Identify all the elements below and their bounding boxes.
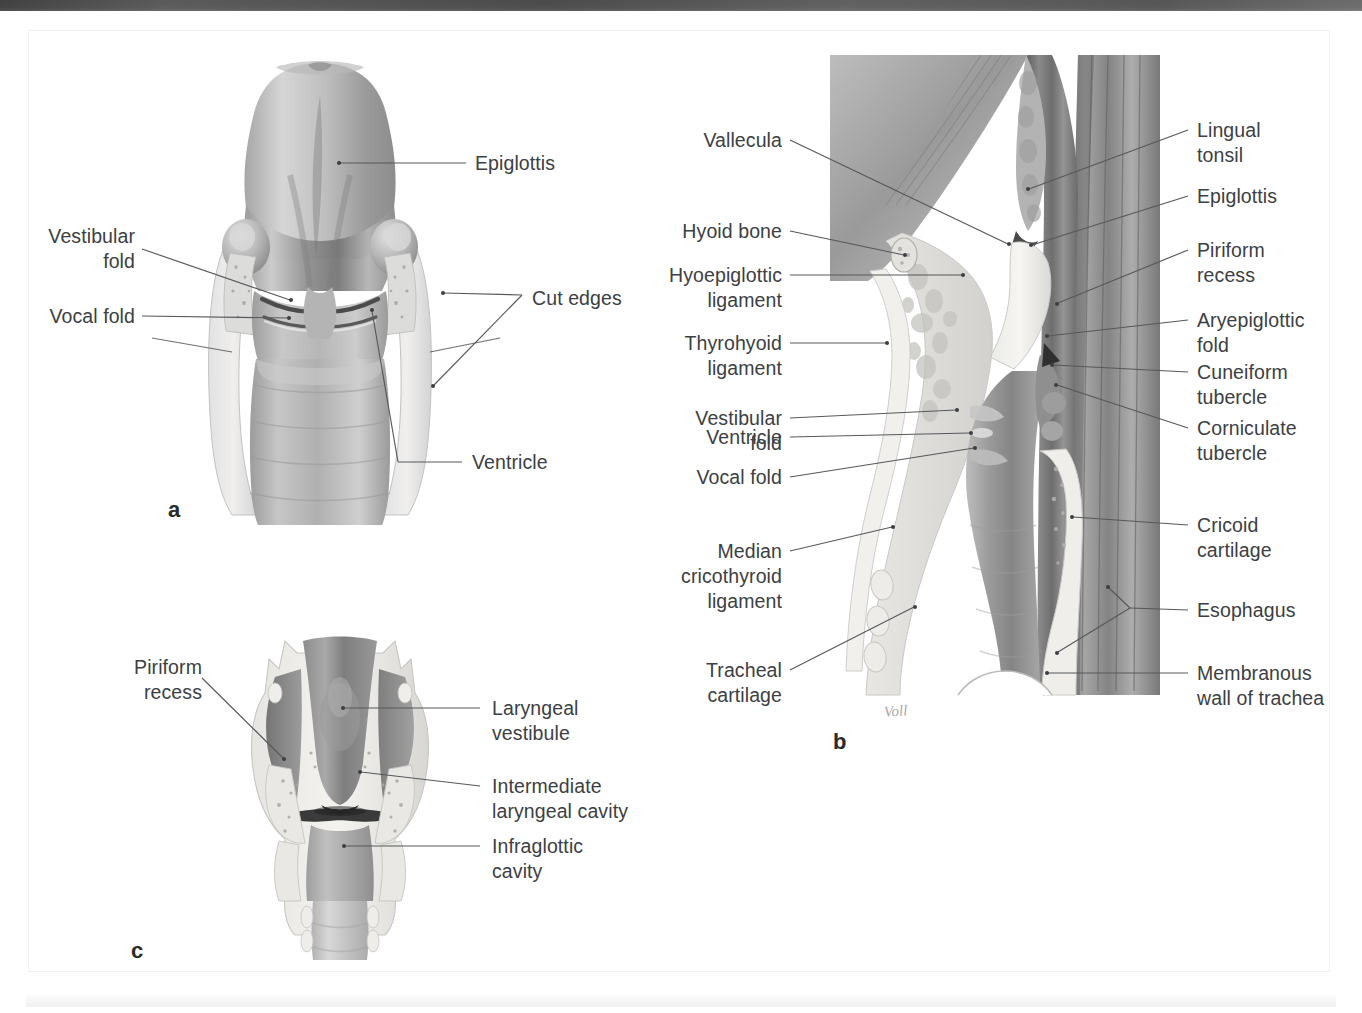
label-a-vocal-fold: Vocal fold: [0, 304, 135, 329]
label-b-tracheal-cartilage: Tracheal cartilage: [582, 658, 782, 708]
label-a-ventricle: Ventricle: [472, 450, 548, 475]
label-b-ventricle: Ventricle: [582, 425, 782, 450]
label-b-vocal-fold: Vocal fold: [582, 465, 782, 490]
label-b-corniculate-tubercle: Corniculate tubercle: [1197, 416, 1297, 466]
label-b-cuneiform-tubercle: Cuneiform tubercle: [1197, 360, 1288, 410]
label-c-piriform-recess: Piriform recess: [2, 655, 202, 705]
label-a-vestibular-fold: Vestibular fold: [0, 224, 135, 274]
label-b-piriform-recess: Piriform recess: [1197, 238, 1265, 288]
label-c-infraglottic-cavity: Infraglottic cavity: [492, 834, 583, 884]
label-b-hyoepiglottic-ligament: Hyoepiglottic ligament: [562, 263, 782, 313]
figure-page: Epiglottis Vestibular fold Vocal fold Cu…: [0, 0, 1362, 1013]
label-b-lingual-tonsil: Lingual tonsil: [1197, 118, 1261, 168]
label-b-hyoid-bone: Hyoid bone: [582, 219, 782, 244]
label-c-intermediate-laryngeal-cavity: Intermediate laryngeal cavity: [492, 774, 628, 824]
panel-letter-c: c: [131, 938, 143, 964]
artist-signature: Voll: [883, 702, 907, 721]
panel-letter-b: b: [833, 729, 846, 755]
label-c-laryngeal-vestibule: Laryngeal vestibule: [492, 696, 579, 746]
label-b-esophagus: Esophagus: [1197, 598, 1295, 623]
label-b-median-cricothyroid-ligament: Median cricothyroid ligament: [562, 539, 782, 614]
label-b-vallecula: Vallecula: [582, 128, 782, 153]
label-b-epiglottis: Epiglottis: [1197, 184, 1277, 209]
scan-artifact-bar: [0, 0, 1362, 11]
panel-letter-a: a: [168, 497, 180, 523]
label-b-cricoid-cartilage: Cricoid cartilage: [1197, 513, 1272, 563]
panel-c-illustration: [225, 635, 455, 960]
label-b-aryepiglottic-fold: Aryepiglottic fold: [1197, 308, 1305, 358]
label-b-thyrohyoid-ligament: Thyrohyoid ligament: [562, 331, 782, 381]
panel-a-illustration: [150, 55, 490, 525]
panel-b-illustration: [830, 55, 1160, 725]
label-b-membranous-wall-of-trachea: Membranous wall of trachea: [1197, 661, 1324, 711]
page-bottom-shade: [26, 993, 1336, 1007]
label-a-epiglottis: Epiglottis: [475, 151, 555, 176]
